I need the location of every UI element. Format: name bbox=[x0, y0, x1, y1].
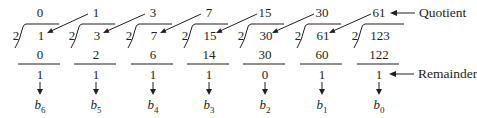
down-arrow-head-icon bbox=[93, 89, 99, 95]
bit-label: b4 bbox=[148, 98, 159, 117]
quotient-value: 3 bbox=[150, 6, 157, 19]
product-value: 2 bbox=[93, 48, 100, 61]
quotient-value: 61 bbox=[373, 6, 386, 19]
divisor-value: 2 bbox=[295, 29, 302, 42]
dividend-value: 61 bbox=[317, 29, 330, 42]
remainder-value: 1 bbox=[319, 68, 326, 81]
quotient-value: 7 bbox=[206, 6, 213, 19]
dividend-value: 123 bbox=[370, 29, 390, 42]
bit-label: b6 bbox=[35, 98, 46, 117]
down-arrow-head-icon bbox=[206, 89, 212, 95]
dividend-value: 30 bbox=[260, 29, 273, 42]
remainder-pointer-head-icon bbox=[389, 71, 396, 77]
remainder-value: 1 bbox=[376, 68, 383, 81]
divisor-value: 2 bbox=[182, 29, 189, 42]
dividend-value: 15 bbox=[204, 29, 217, 42]
divisor-value: 2 bbox=[352, 29, 359, 42]
remainder-label: Remainder bbox=[418, 67, 477, 81]
quotient-value: 15 bbox=[259, 6, 272, 19]
down-arrow-head-icon bbox=[150, 89, 156, 95]
bit-index: 6 bbox=[41, 105, 46, 115]
divisor-value: 2 bbox=[13, 29, 20, 42]
bit-index: 2 bbox=[266, 105, 271, 115]
product-value: 6 bbox=[150, 48, 157, 61]
bit-label: b1 bbox=[317, 98, 328, 117]
product-value: 0 bbox=[37, 48, 44, 61]
divisor-value: 2 bbox=[69, 29, 76, 42]
quotient-value: 30 bbox=[316, 6, 329, 19]
bit-index: 5 bbox=[97, 105, 102, 115]
remainder-value: 1 bbox=[37, 68, 44, 81]
divisor-value: 2 bbox=[126, 29, 133, 42]
quotient-pointer-head-icon bbox=[390, 10, 397, 16]
dividend-value: 7 bbox=[151, 29, 158, 42]
quotient-value: 1 bbox=[93, 6, 100, 19]
bit-label: b0 bbox=[374, 98, 385, 117]
dividend-value: 3 bbox=[94, 29, 101, 42]
product-value: 122 bbox=[369, 48, 389, 61]
quotient-label: Quotient bbox=[419, 6, 466, 20]
quotient-value: 0 bbox=[37, 6, 44, 19]
bit-label: b2 bbox=[260, 98, 271, 117]
remainder-value: 1 bbox=[93, 68, 100, 81]
down-arrow-head-icon bbox=[376, 89, 382, 95]
bit-index: 3 bbox=[210, 105, 215, 115]
product-value: 60 bbox=[316, 48, 329, 61]
down-arrow-head-icon bbox=[262, 89, 268, 95]
bit-label: b5 bbox=[91, 98, 102, 117]
remainder-value: 1 bbox=[206, 68, 213, 81]
down-arrow-head-icon bbox=[37, 89, 43, 95]
dividend-value: 1 bbox=[38, 29, 45, 42]
bit-index: 1 bbox=[323, 105, 328, 115]
remainder-value: 0 bbox=[262, 68, 269, 81]
product-value: 14 bbox=[203, 48, 216, 61]
divisor-value: 2 bbox=[238, 29, 245, 42]
bit-label: b3 bbox=[204, 98, 215, 117]
remainder-value: 1 bbox=[150, 68, 157, 81]
product-value: 30 bbox=[259, 48, 272, 61]
bit-index: 4 bbox=[154, 105, 159, 115]
down-arrow-head-icon bbox=[319, 89, 325, 95]
bit-index: 0 bbox=[380, 105, 385, 115]
